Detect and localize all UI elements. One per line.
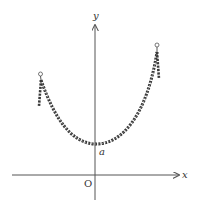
min-point-label: a [99,146,105,157]
x-axis-label: x [182,169,188,180]
chain-right-end [157,52,159,79]
catenary-diagram: y x O a [0,0,199,209]
diagram-svg: y x O a [0,0,199,209]
y-axis-label: y [92,10,99,21]
chain-left-end [39,80,41,106]
right-pin-icon [155,43,159,47]
origin-label: O [84,178,92,189]
left-pin-icon [39,72,43,76]
chain-curve [41,52,157,144]
